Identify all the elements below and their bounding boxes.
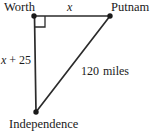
side-label-left-variable: x <box>1 53 6 67</box>
triangle-diagram: Worth Putnam Independence x x + 25 120mi… <box>0 0 154 133</box>
side-label-left-operator: + <box>9 53 16 67</box>
side-label-left: x + 25 <box>1 54 31 66</box>
hypotenuse-unit: miles <box>103 64 129 78</box>
vertex-label-independence: Independence <box>9 118 78 131</box>
side-label-left-constant: 25 <box>19 53 31 67</box>
hypotenuse-value: 120 <box>81 64 99 78</box>
vertex-dot-worth <box>31 13 36 18</box>
vertex-dot-independence <box>33 109 38 114</box>
vertex-label-putnam: Putnam <box>111 1 149 14</box>
side-label-hypotenuse: 120miles <box>81 65 129 77</box>
vertex-dot-putnam <box>107 13 112 18</box>
vertex-label-worth: Worth <box>4 1 35 14</box>
side-label-top: x <box>67 1 72 13</box>
triangle-side-left <box>35 16 37 112</box>
